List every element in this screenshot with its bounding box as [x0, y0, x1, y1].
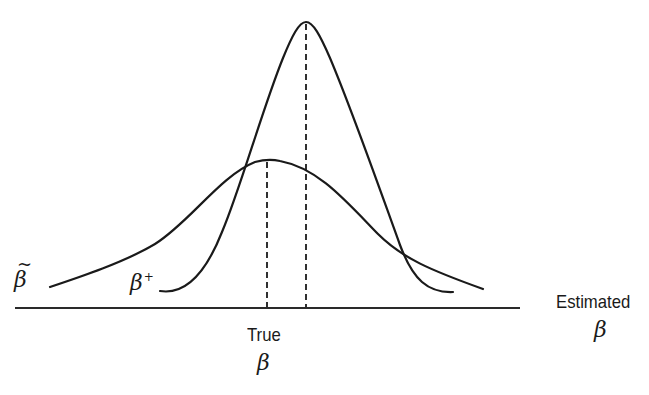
true-beta-symbol: β	[257, 350, 270, 375]
estimator-distribution-diagram	[0, 0, 649, 395]
beta-tilde-label: β ~	[14, 267, 27, 292]
estimated-label: Estimated	[556, 291, 630, 313]
tilde-accent: ~	[17, 253, 32, 274]
estimated-beta-symbol: β	[594, 317, 607, 342]
beta-plus-label: β+	[130, 270, 154, 295]
plus-superscript: +	[144, 270, 154, 284]
true-label: True	[247, 324, 281, 346]
